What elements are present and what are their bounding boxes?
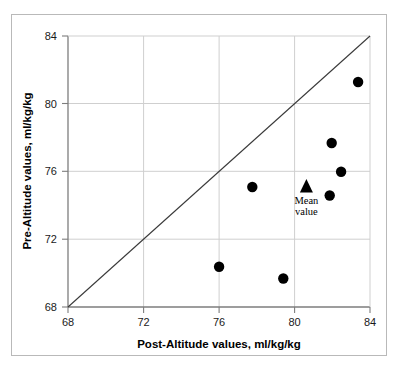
xtick-label-84: 84: [364, 316, 376, 328]
x-axis-title: Post-Altitude values, ml/kg/kg: [137, 338, 301, 350]
mean-value-annotation: Mean value: [294, 195, 319, 217]
y-axis-ticks: [62, 36, 68, 307]
xtick-label-68: 68: [62, 316, 74, 328]
mean-annotation-line2: value: [295, 206, 318, 217]
ytick-label-72: 72: [45, 233, 57, 245]
xtick-label-72: 72: [137, 316, 149, 328]
data-points-group: [214, 77, 363, 284]
plot-canvas: 84 80 76 72 68 68 72 76 80 84: [0, 0, 399, 371]
xtick-label-76: 76: [213, 316, 225, 328]
mean-value-marker[interactable]: [300, 179, 313, 193]
xtick-label-80: 80: [288, 316, 300, 328]
y-axis-title: Pre-Altitude values, ml/kg/kg: [21, 92, 33, 249]
x-axis-ticks: [68, 307, 370, 313]
data-point[interactable]: [247, 182, 257, 192]
ytick-label-76: 76: [45, 165, 57, 177]
scatter-plot-figure: 84 80 76 72 68 68 72 76 80 84: [0, 0, 399, 371]
x-tick-labels: 68 72 76 80 84: [62, 316, 376, 328]
data-point[interactable]: [336, 167, 346, 177]
data-point[interactable]: [278, 273, 288, 283]
data-point[interactable]: [325, 190, 335, 200]
ytick-label-68: 68: [45, 301, 57, 313]
data-point[interactable]: [214, 262, 224, 272]
mean-annotation-line1: Mean: [294, 195, 319, 206]
ytick-label-80: 80: [45, 98, 57, 110]
data-point[interactable]: [353, 77, 363, 87]
y-tick-labels: 84 80 76 72 68: [45, 30, 57, 313]
ytick-label-84: 84: [45, 30, 57, 42]
data-point[interactable]: [327, 138, 337, 148]
